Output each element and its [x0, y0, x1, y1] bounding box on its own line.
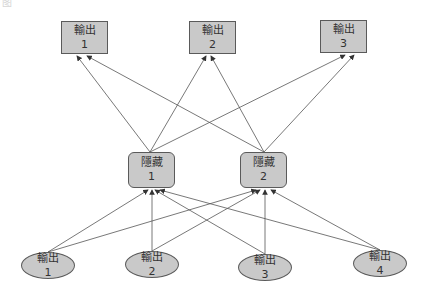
hidden-node-2: 隱藏 2 — [240, 152, 287, 188]
node-index: 2 — [209, 38, 216, 52]
output-node-2: 輸出 2 — [189, 21, 236, 54]
node-label: 輸出 — [74, 24, 96, 38]
node-index: 4 — [377, 264, 384, 278]
output-node-3: 輸出 3 — [320, 20, 367, 53]
node-label: 隱藏 — [253, 156, 275, 170]
node-index: 1 — [148, 170, 155, 184]
node-label: 輸出 — [254, 254, 276, 268]
node-index: 3 — [340, 37, 347, 51]
input-node-1: 輸出 1 — [21, 252, 75, 279]
node-label: 輸出 — [202, 24, 224, 38]
node-index: 2 — [260, 170, 267, 184]
edge-hidden2-output3 — [264, 55, 354, 152]
input-node-4: 輸出 4 — [353, 250, 407, 277]
edge-input3-hidden1 — [155, 190, 265, 254]
node-index: 2 — [149, 265, 156, 279]
edge-hidden1-output2 — [150, 56, 206, 152]
output-node-1: 輸出 1 — [61, 21, 108, 54]
edge-hidden1-output3 — [150, 55, 345, 152]
edge-input4-hidden1 — [160, 190, 380, 250]
input-node-2: 輸出 2 — [125, 251, 179, 278]
node-label: 輸出 — [333, 23, 355, 37]
input-node-3: 輸出 3 — [238, 254, 292, 281]
node-label: 輸出 — [141, 251, 163, 265]
node-label: 隱藏 — [141, 156, 163, 170]
node-index: 3 — [262, 268, 269, 282]
edge-input4-hidden2 — [271, 190, 380, 250]
node-index: 1 — [81, 38, 88, 52]
node-index: 1 — [45, 266, 52, 280]
neural-network-diagram: 图 輸出 1 — [0, 0, 426, 297]
hidden-node-1: 隱藏 1 — [128, 152, 175, 188]
node-label: 輸出 — [37, 252, 59, 266]
edge-input1-hidden1 — [48, 190, 148, 252]
node-label: 輸出 — [369, 250, 391, 264]
